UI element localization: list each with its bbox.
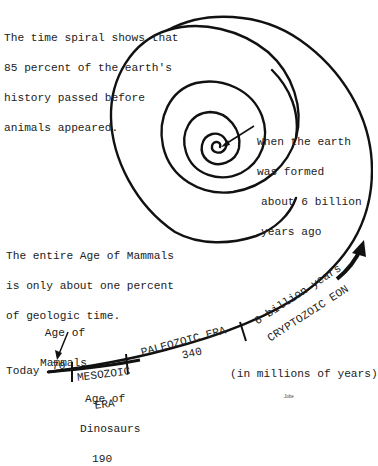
origin-line-3: about 6 billion [257, 197, 362, 207]
mesozoic-value: 190 [80, 454, 140, 464]
origin-line-4: years ago [257, 227, 362, 237]
mammal-note-line-3: of geologic time. [6, 311, 174, 321]
today-label: Today [6, 366, 40, 376]
units-label: (in millions of years) [230, 369, 378, 379]
intro-line-1: The time spiral shows that [4, 33, 179, 43]
age-of-mammals-line-1: Age of [40, 328, 87, 338]
age-of-mammals-value: 70 [52, 361, 65, 371]
origin-callout: When the earth was formed about 6 billio… [257, 117, 362, 257]
mammal-note-line-1: The entire Age of Mammals [6, 251, 174, 261]
intro-text: The time spiral shows that 85 percent of… [4, 13, 179, 153]
origin-line-2: was formed [257, 167, 362, 177]
dinosaurs-line-2: Dinosaurs [80, 424, 140, 434]
mammal-note: The entire Age of Mammals is only about … [6, 231, 174, 341]
intro-line-4: animals appeared. [4, 123, 179, 133]
mammal-note-line-2: is only about one percent [6, 281, 174, 291]
intro-line-2: 85 percent of the earth's [4, 63, 179, 73]
age-of-dinosaurs-label: Age of Dinosaurs 190 [80, 374, 140, 466]
artist-signature: Jobe [284, 392, 294, 402]
dinosaurs-line-1: Age of [80, 394, 140, 404]
origin-line-1: When the earth [257, 137, 362, 147]
intro-line-3: history passed before [4, 93, 179, 103]
